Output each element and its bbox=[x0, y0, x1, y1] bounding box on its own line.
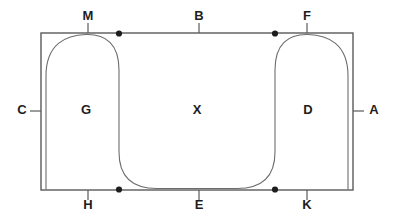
point-label-a: A bbox=[369, 102, 379, 117]
point-label-h: H bbox=[83, 197, 92, 212]
point-label-b: B bbox=[194, 8, 203, 23]
region-label-group: GXD bbox=[81, 102, 313, 117]
geometric-figure-svg: MBFCAHEK GXD bbox=[0, 0, 394, 223]
point-label-c: C bbox=[17, 102, 27, 117]
top-left-dot bbox=[116, 30, 122, 36]
region-label-g: G bbox=[81, 102, 91, 117]
point-label-e: E bbox=[195, 197, 204, 212]
bottom-right-dot bbox=[272, 186, 278, 192]
region-label-d: D bbox=[303, 102, 312, 117]
point-label-k: K bbox=[302, 197, 312, 212]
geometric-figure-container: MBFCAHEK GXD bbox=[0, 0, 394, 223]
region-label-x: X bbox=[193, 102, 202, 117]
point-label-m: M bbox=[83, 8, 94, 23]
bottom-left-dot bbox=[116, 186, 122, 192]
top-right-dot bbox=[272, 30, 278, 36]
point-label-f: F bbox=[303, 8, 311, 23]
